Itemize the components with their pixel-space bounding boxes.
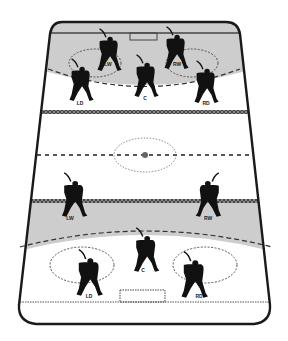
- top-blue-line: [30, 110, 260, 114]
- label-top-rd: RD: [202, 100, 210, 106]
- label-top-ld: LD: [77, 100, 84, 106]
- label-top-rw: RW: [173, 61, 182, 67]
- hockey-rink-diagram: LD C RD LW RW LW RW C LD RD: [0, 0, 288, 341]
- label-top-c: C: [143, 95, 147, 101]
- center-faceoff-dot: [142, 152, 148, 158]
- label-mid-lw: LW: [66, 215, 74, 221]
- label-mid-rw: RW: [204, 215, 213, 221]
- label-bottom-rd: RD: [195, 293, 203, 299]
- label-bottom-ld: LD: [86, 293, 93, 299]
- label-top-lw: LW: [104, 61, 112, 67]
- bottom-blue-line: [15, 199, 275, 203]
- rink-svg: LD C RD LW RW LW RW C LD RD: [0, 0, 288, 341]
- label-bottom-c: C: [141, 267, 145, 273]
